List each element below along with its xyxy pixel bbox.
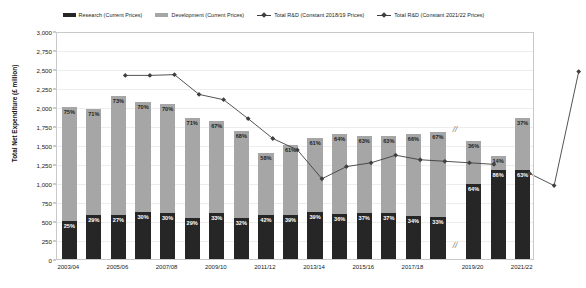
y-tick-label: 0: [0, 257, 52, 264]
line-marker-icon: [257, 13, 271, 18]
x-tick-label: 2009/10: [205, 264, 227, 270]
x-tick-label: 2011/12: [254, 264, 275, 270]
legend-label-development: Development (Current Prices): [171, 12, 244, 18]
y-tick-label: 1,250: [0, 162, 52, 169]
bar-label-research: 29%: [88, 217, 99, 223]
legend-label-total-rd-2018: Total R&D (Constant 2018/19 Prices): [274, 12, 364, 18]
line-total-rd-2018-marker: [467, 160, 472, 165]
bar-segment-research[interactable]: 29%: [86, 215, 101, 259]
legend-label-total-rd-2021: Total R&D (Constant 2021/22 Prices): [394, 12, 484, 18]
y-tick-label: 750: [0, 200, 52, 207]
line-total-rd-2021-marker: [552, 183, 557, 188]
bar-label-development: 75%: [64, 109, 75, 115]
y-tick-label: 3,000: [0, 29, 52, 36]
line-total-rd-2021-marker: [527, 171, 532, 176]
y-tick-label: 500: [0, 219, 52, 226]
development-color-swatch: [155, 13, 168, 17]
y-tick-label: 1,000: [0, 181, 52, 188]
bar-column[interactable]: 71%29%: [86, 109, 101, 259]
x-tick-label: 2007/08: [156, 264, 178, 270]
axis-break-mark: //: [453, 241, 457, 250]
research-color-swatch: [63, 13, 76, 17]
axis-break-mark: //: [453, 125, 457, 134]
x-tick-label: 2017/18: [402, 264, 424, 270]
y-tick-label: 1,500: [0, 143, 52, 150]
line-total-rd-2018-marker: [147, 73, 152, 78]
y-tick-label: 2,250: [0, 86, 52, 93]
x-tick-label: 2019/20: [462, 264, 484, 270]
legend-item-total-rd-2018[interactable]: Total R&D (Constant 2018/19 Prices): [257, 12, 364, 18]
x-tick-label: 2003/04: [57, 264, 79, 270]
line-marker-icon: [377, 13, 391, 18]
y-tick-label: 2,750: [0, 48, 52, 55]
legend-item-research[interactable]: Research (Current Prices): [63, 12, 143, 18]
legend-item-development[interactable]: Development (Current Prices): [155, 12, 244, 18]
y-tick-label: 2,000: [0, 105, 52, 112]
x-tick-label: 2021/22: [511, 264, 533, 270]
line-total-rd-2021-path: [530, 72, 579, 186]
y-tick-label: 250: [0, 238, 52, 245]
line-total-rd-2021-marker: [576, 69, 581, 74]
line-total-rd-2018-marker: [442, 159, 447, 164]
gridline: [57, 32, 534, 33]
line-total-rd-2018-marker: [393, 153, 398, 158]
line-total-rd-2018-marker: [418, 157, 423, 162]
y-tick-label: 1,750: [0, 124, 52, 131]
legend-item-total-rd-2021[interactable]: Total R&D (Constant 2021/22 Prices): [377, 12, 484, 18]
y-tick-label: 2,500: [0, 67, 52, 74]
bar-segment-development[interactable]: 71%: [86, 109, 101, 216]
gridline: [57, 51, 534, 52]
chart-legend: Research (Current Prices) Development (C…: [0, 8, 547, 22]
line-total-rd-2018-marker: [123, 73, 128, 78]
x-axis-ticks: 2003/042005/062007/082009/102011/122013/…: [56, 262, 534, 276]
line-series-group: [113, 64, 586, 288]
bar-column[interactable]: 75%25%: [62, 107, 77, 259]
legend-label-research: Research (Current Prices): [79, 12, 143, 18]
bar-label-research: 25%: [64, 223, 75, 229]
bar-label-development: 71%: [88, 111, 99, 117]
line-total-rd-2018-marker: [344, 164, 349, 169]
line-total-rd-2018-marker: [369, 160, 374, 165]
bar-segment-research[interactable]: 25%: [62, 221, 77, 259]
x-tick-label: 2015/16: [352, 264, 374, 270]
line-total-rd-2018-path: [125, 75, 494, 179]
x-tick-label: 2013/14: [303, 264, 325, 270]
x-tick-label: 2005/06: [107, 264, 129, 270]
bar-segment-development[interactable]: 75%: [62, 107, 77, 221]
line-total-rd-2018-marker: [492, 162, 497, 167]
plot-area: 75%25%71%29%73%27%70%30%70%30%71%29%67%3…: [56, 32, 534, 260]
